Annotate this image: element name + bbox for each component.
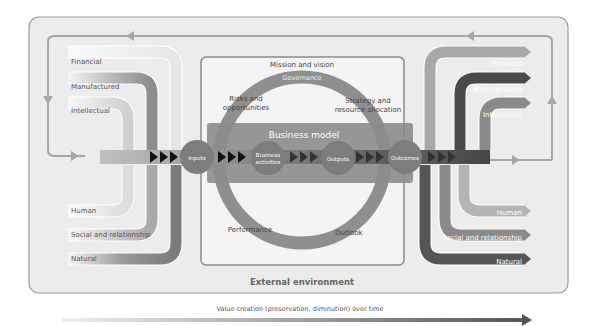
governance-label: Governance bbox=[282, 74, 321, 82]
output-label-social: Social and relationship bbox=[442, 234, 522, 242]
activities-label-line1: Business bbox=[256, 152, 280, 158]
outputs-label: Outputs bbox=[327, 156, 349, 163]
strategy-label-line1: Strategy and bbox=[345, 97, 390, 105]
value-creation-arrow-head bbox=[522, 314, 532, 326]
business-model-label: Business model bbox=[269, 130, 340, 140]
inputs-label: Inputs bbox=[188, 155, 205, 162]
input-label-social: Social and relationship bbox=[71, 231, 151, 239]
value-creation-label: Value creation (preservation, diminution… bbox=[217, 305, 384, 313]
mission-label: Mission and vision bbox=[270, 61, 334, 69]
business-activities-node bbox=[251, 141, 285, 175]
strategy-label-line2: resource allocation bbox=[335, 106, 402, 114]
external-environment-label: External environment bbox=[250, 277, 354, 287]
activities-label-line2: activities bbox=[256, 159, 281, 165]
output-label-financial: Financial bbox=[491, 60, 522, 68]
input-label-intellectual: Intellectual bbox=[71, 107, 110, 115]
risks-label-line2: opportunities bbox=[223, 104, 270, 112]
input-label-natural: Natural bbox=[71, 255, 97, 263]
output-label-natural: Natural bbox=[496, 258, 522, 266]
outcomes-label: Outcomes bbox=[391, 155, 419, 161]
integrated-reporting-diagram: Financial Manufactured Intellectual Huma… bbox=[0, 0, 595, 326]
risks-label-line1: Risks and bbox=[229, 95, 263, 103]
value-creation-arrow-bar bbox=[62, 318, 524, 322]
input-label-financial: Financial bbox=[71, 58, 102, 66]
outlook-label: Outlook bbox=[335, 229, 363, 237]
output-label-manufactured: Manufactured bbox=[474, 86, 522, 94]
input-label-human: Human bbox=[71, 207, 96, 215]
output-label-human: Human bbox=[497, 209, 522, 217]
performance-label: Performance bbox=[228, 226, 272, 234]
input-label-manufactured: Manufactured bbox=[71, 83, 119, 91]
output-label-intellectual: Intellectual bbox=[483, 111, 522, 119]
